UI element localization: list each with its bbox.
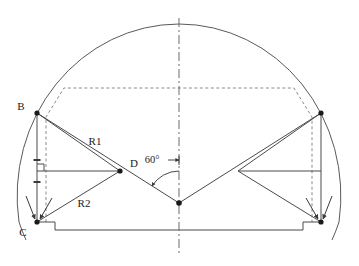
radius-line-r2-right xyxy=(238,171,321,222)
node-center-vertex xyxy=(176,200,182,206)
cross-line-b-to-center-right xyxy=(179,113,321,203)
radius-line-r1-right xyxy=(238,113,321,171)
node-point-c-right xyxy=(318,219,323,224)
node-point-b xyxy=(34,110,39,115)
radius-line-r1-left xyxy=(37,113,120,171)
node-point-c xyxy=(34,219,39,224)
label-radius-1: R1 xyxy=(89,135,102,147)
arc-tail-right xyxy=(332,222,339,240)
node-point-d xyxy=(117,168,122,173)
node-point-b-right xyxy=(318,110,323,115)
engineering-diagram-canvas: B C D R1 R2 60° xyxy=(0,0,359,266)
label-point-c: C xyxy=(19,226,26,238)
arrow-to-cr-right xyxy=(323,196,332,219)
angle-arc-60 xyxy=(152,171,179,186)
label-radius-2: R2 xyxy=(78,197,91,209)
label-point-b: B xyxy=(17,100,24,112)
arrow-to-c-left xyxy=(26,196,35,219)
label-point-d: D xyxy=(130,157,138,169)
right-angle-marker xyxy=(37,164,44,171)
label-angle-60: 60° xyxy=(145,154,160,165)
diagram-svg: B C D R1 R2 60° xyxy=(0,0,359,266)
